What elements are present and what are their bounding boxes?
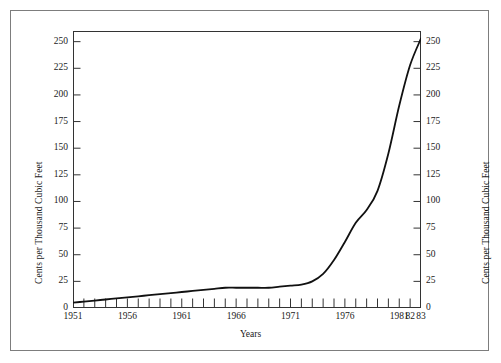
y-tick-label-left: 225: [42, 62, 68, 72]
plot-svg: [73, 31, 421, 308]
y-tick-label-left: 50: [42, 249, 68, 259]
y-tick-label-right: 100: [426, 195, 452, 205]
x-tick-label: 1966: [219, 311, 253, 321]
x-tick-label: 1976: [328, 311, 362, 321]
y-tick-label-left: 250: [42, 36, 68, 46]
y-tick-label-right: 50: [426, 249, 452, 259]
x-tick-label: 1951: [56, 311, 90, 321]
y-tick-label-right: 225: [426, 62, 452, 72]
x-tick-label: 1971: [274, 311, 308, 321]
axis-ticks: [73, 42, 421, 308]
x-tick-label: 1961: [165, 311, 199, 321]
y-tick-label-left: 175: [42, 116, 68, 126]
y-tick-label-left: 25: [42, 275, 68, 285]
x-tick-label: 83: [404, 311, 438, 321]
x-axis-title: Years: [0, 329, 501, 339]
y-tick-label-right: 250: [426, 36, 452, 46]
x-tick-label: 1956: [110, 311, 144, 321]
y-tick-label-right: 25: [426, 275, 452, 285]
series-line: [73, 38, 421, 302]
chart-figure: Cents per Thousand Cubic Feet Cents per …: [0, 0, 501, 363]
y-axis-title-right: Cents per Thousand Cubic Feet: [481, 161, 491, 284]
y-tick-label-right: 75: [426, 222, 452, 232]
y-tick-label-left: 100: [42, 195, 68, 205]
y-tick-label-right: 200: [426, 89, 452, 99]
y-tick-label-left: 75: [42, 222, 68, 232]
axes: [73, 31, 421, 308]
y-tick-label-right: 150: [426, 142, 452, 152]
data-series: [73, 38, 421, 302]
y-tick-label-left: 200: [42, 89, 68, 99]
y-tick-label-left: 150: [42, 142, 68, 152]
plot-area: [73, 31, 421, 308]
y-tick-label-right: 175: [426, 116, 452, 126]
y-tick-label-right: 125: [426, 169, 452, 179]
y-tick-label-left: 125: [42, 169, 68, 179]
